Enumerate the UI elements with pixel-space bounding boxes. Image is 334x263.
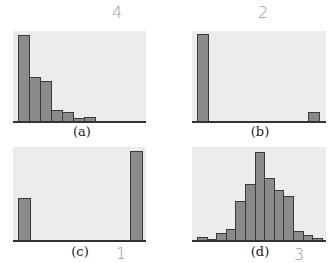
handwritten-annotation-a: 4 [112, 3, 122, 22]
handwritten-annotation-c: 1 [116, 244, 126, 263]
histogram-bar [130, 151, 143, 241]
x-axis-a [13, 121, 146, 123]
x-axis-c [13, 240, 146, 242]
x-axis-b [192, 121, 326, 123]
panel-label-b: (b) [240, 124, 280, 139]
histogram-panel-c [13, 147, 146, 240]
panel-label-d: (d) [240, 244, 280, 259]
histogram-panel-b [192, 31, 326, 121]
histogram-bar [18, 198, 31, 241]
x-axis-d [192, 240, 326, 242]
panel-label-a: (a) [62, 124, 102, 139]
handwritten-annotation-d: 3 [294, 245, 304, 263]
panel-label-c: (c) [60, 244, 100, 259]
histogram-bar [197, 34, 209, 122]
handwritten-annotation-b: 2 [258, 3, 268, 22]
